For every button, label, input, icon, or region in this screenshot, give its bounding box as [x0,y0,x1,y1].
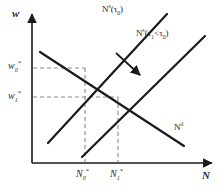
x-tick-N0: N0* [76,168,89,182]
x-tick-N1-sub: 1 [117,174,120,181]
y-tick-w1: w1* [8,90,21,104]
axis-lines [32,14,212,163]
x-tick-N0-sup: * [86,167,89,174]
supply-curve-tau1-label: Ns(τ1<τ0) [136,28,169,40]
y-tick-w0: w0* [8,60,21,74]
supply1-arg-mid: <τ [154,28,163,38]
y-tick-w0-sub: 0 [15,66,18,73]
demand-curve-label: Nd [174,122,183,132]
x-tick-N1-sup: * [120,167,123,174]
demand-superscript: d [181,121,184,127]
y-tick-w1-main: w [8,90,15,101]
supply-curve-tau1 [82,36,205,157]
guide-lines-equilibrium-0 [33,68,85,162]
y-tick-w1-sub: 1 [15,96,18,103]
y-tick-w0-main: w [8,60,15,71]
x-tick-N1: N1* [110,168,123,182]
x-tick-N0-sub: 0 [83,174,86,181]
diagram-canvas [0,0,222,191]
curve-lines [40,14,205,157]
labor-market-diagram: w N w0* w1* N0* N1* Ns(τ0) Ns(τ1<τ0) Nd [0,0,222,191]
guide-lines-equilibrium-1 [33,97,118,162]
x-tick-N1-main: N [110,168,117,179]
x-tick-N0-main: N [76,168,83,179]
supply0-arg-close: ) [120,4,123,14]
supply1-arg-close: ) [166,28,169,38]
demand-curve [40,52,184,146]
y-axis-label: w [12,8,19,19]
y-tick-w0-sup: * [18,59,21,66]
x-axis-label: N [202,170,210,181]
supply-curve-tau0-label: Ns(τ0) [102,4,123,16]
y-tick-w1-sup: * [18,89,21,96]
